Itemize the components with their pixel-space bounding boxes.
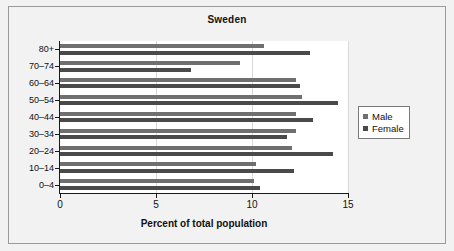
bar-female-60_64 [60, 84, 300, 88]
bar-male-20_24 [60, 146, 292, 150]
y-axis-tick [55, 185, 60, 186]
legend-item-male: Male [363, 110, 404, 122]
bar-female-80+ [60, 51, 310, 55]
bar-female-20_24 [60, 152, 333, 156]
bar-male-70_74 [60, 61, 240, 65]
chart-legend: MaleFemale [358, 106, 410, 139]
bar-male-60_64 [60, 78, 296, 82]
x-axis-tick-label: 0 [57, 199, 63, 210]
bar-male-80+ [60, 44, 264, 48]
bars-layer [60, 41, 348, 193]
x-axis-tick-label: 5 [153, 199, 159, 210]
legend-swatch-icon [363, 126, 368, 131]
legend-item-female: Female [363, 122, 404, 134]
bar-male-0_4 [60, 179, 254, 183]
y-axis-tick-label: 80+ [8, 44, 54, 54]
y-axis-tick [55, 100, 60, 101]
x-axis-title: Percent of total population [60, 218, 348, 229]
y-axis-tick [55, 49, 60, 50]
x-axis-tick [348, 193, 349, 198]
bar-male-40_44 [60, 112, 296, 116]
plot-area [60, 41, 348, 193]
y-axis-tick [55, 83, 60, 84]
x-axis-tick-label: 10 [246, 199, 257, 210]
y-axis-tick [55, 151, 60, 152]
x-axis-tick [156, 193, 157, 198]
y-axis-tick [55, 66, 60, 67]
bar-female-10_14 [60, 169, 294, 173]
chart-title: Sweden [0, 14, 454, 25]
y-axis-tick-label: 0–4 [8, 180, 54, 190]
legend-label: Male [372, 111, 393, 122]
bar-male-10_14 [60, 162, 256, 166]
y-axis-tick [55, 117, 60, 118]
bar-female-0_4 [60, 186, 260, 190]
x-axis-tick [60, 193, 61, 198]
y-axis-tick-label: 60–64 [8, 78, 54, 88]
bar-male-50_54 [60, 95, 302, 99]
y-axis-tick-label: 50–54 [8, 95, 54, 105]
bar-female-40_44 [60, 118, 313, 122]
bar-female-70_74 [60, 68, 191, 72]
bar-female-50_54 [60, 101, 338, 105]
y-axis-tick-label: 70–74 [8, 61, 54, 71]
gridline [348, 41, 349, 193]
y-axis-tick [55, 168, 60, 169]
bar-female-30_34 [60, 135, 287, 139]
x-axis-line [59, 193, 349, 194]
y-axis-tick [55, 134, 60, 135]
y-axis-tick-label: 20–24 [8, 146, 54, 156]
legend-swatch-icon [363, 114, 368, 119]
legend-label: Female [372, 123, 404, 134]
y-axis-tick-label: 40–44 [8, 112, 54, 122]
y-axis-tick-label: 30–34 [8, 129, 54, 139]
bar-male-30_34 [60, 129, 296, 133]
chart-figure: Sweden 0–410–1420–2430–3440–4450–5460–64… [0, 0, 454, 251]
x-axis-tick [252, 193, 253, 198]
y-axis-tick-label: 10–14 [8, 163, 54, 173]
x-axis-tick-label: 15 [342, 199, 353, 210]
